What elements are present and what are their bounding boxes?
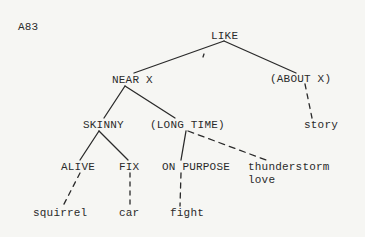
edge-skinny-fix — [99, 131, 128, 160]
edge-long-time-on-purpose — [181, 131, 186, 160]
node-thunderstorm-love-line2: love — [248, 174, 275, 186]
edge-near-x-long-time — [125, 86, 175, 118]
node-fight: fight — [170, 207, 204, 219]
edge-like-about-x — [224, 41, 296, 73]
edge-near-x-skinny — [104, 86, 125, 118]
node-about-x: (ABOUT X) — [270, 73, 331, 85]
node-thunderstorm-love-line1: thunderstorm — [248, 161, 330, 173]
edge-on-purpose-fight — [180, 173, 181, 206]
node-skinny: SKINNY — [83, 119, 124, 131]
node-alive: ALIVE — [61, 161, 95, 173]
node-near-x: NEAR X — [112, 74, 153, 86]
figure-id-label: A83 — [18, 21, 38, 33]
node-story: story — [304, 119, 338, 131]
tree-diagram: A83 LIKE NEAR X (ABOUT X) SKINNY (LONG T… — [0, 0, 365, 237]
edge-like-near-x — [134, 41, 224, 73]
edge-skinny-alive — [80, 131, 99, 160]
edge-long-time-thunderstorm-love — [188, 131, 266, 160]
node-on-purpose: ON PURPOSE — [162, 161, 230, 173]
node-squirrel: squirrel — [33, 207, 87, 219]
node-long-time: (LONG TIME) — [150, 119, 225, 131]
node-like: LIKE — [211, 30, 238, 42]
edge-about-x-story — [305, 84, 312, 118]
node-car: car — [119, 207, 139, 219]
edge-alive-squirrel — [63, 173, 80, 206]
node-fix: FIX — [119, 161, 139, 173]
stray-mark — [203, 54, 204, 57]
